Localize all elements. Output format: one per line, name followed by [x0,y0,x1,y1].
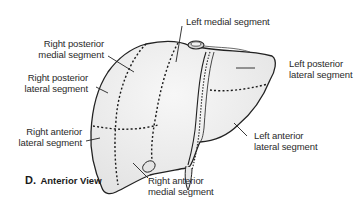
label-line: Left anterior [254,130,317,141]
label-left-anterior-lateral-segment: Left anterior lateral segment [254,130,317,152]
liver-outline [91,42,275,194]
label-line: lateral segment [289,69,352,80]
label-line: Right anterior [148,175,214,186]
label-line: Left posterior [289,58,352,69]
label-line: Right posterior [22,72,88,83]
caption-view: Anterior View [40,175,101,186]
label-line: lateral segment [22,83,88,94]
label-left-posterior-lateral-segment: Left posterior lateral segment [289,58,352,80]
figure-caption: D. Anterior View [25,170,102,188]
label-line: Right posterior [38,38,104,49]
label-line: lateral segment [254,141,317,152]
caption-letter: D. [25,174,36,186]
label-right-anterior-medial-segment: Right anterior medial segment [148,175,214,197]
label-line: medial segment [148,186,214,197]
label-left-medial-segment: Left medial segment [186,16,270,27]
label-right-posterior-lateral-segment: Right posterior lateral segment [22,72,88,94]
label-line: medial segment [38,49,104,60]
label-line: lateral segment [14,137,82,148]
label-right-posterior-medial-segment: Right posterior medial segment [38,38,104,60]
label-line: Right anterior [14,126,82,137]
liver-segments-diagram: Left medial segment Right posterior medi… [0,0,364,209]
label-right-anterior-lateral-segment: Right anterior lateral segment [14,126,82,148]
